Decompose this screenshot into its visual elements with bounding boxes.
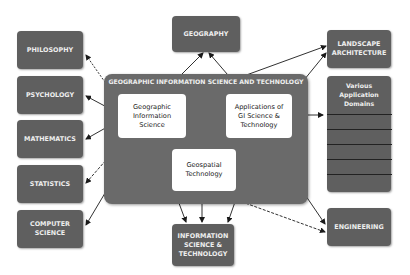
node-label: Geographic Information Science [133,103,171,130]
core-title: GEOGRAPHIC INFORMATION SCIENCE AND TECHN… [104,78,308,85]
node-label: Applications of GI Science & Technology [235,103,284,130]
node-label: Geospatial Technology [186,161,223,179]
node-label: STATISTICS [30,180,70,189]
node-statistics[interactable]: STATISTICS [17,165,83,203]
node-applications-gi[interactable]: Applications of GI Science & Technology [226,94,292,138]
node-label: Various Application Domains [327,81,391,108]
node-engineering[interactable]: ENGINEERING [327,208,391,246]
node-geospatial-technology[interactable]: Geospatial Technology [172,149,236,191]
node-label: ENGINEERING [334,223,383,232]
node-computer-science[interactable]: COMPUTER SCIENCE [17,210,83,248]
stack-divider [327,174,392,175]
node-mathematics[interactable]: MATHEMATICS [17,120,83,158]
node-label: PHILOSOPHY [27,46,73,55]
node-label: LANDSCAPE ARCHITECTURE [332,40,387,58]
node-label: PSYCHOLOGY [26,91,74,100]
node-label: COMPUTER SCIENCE [30,220,70,238]
node-label: INFORMATION SCIENCE & TECHNOLOGY [178,232,229,259]
stack-divider [327,129,392,130]
node-label: MATHEMATICS [24,135,76,144]
node-psychology[interactable]: PSYCHOLOGY [17,76,83,114]
node-philosophy[interactable]: PHILOSOPHY [17,31,83,69]
node-label: GEOGRAPHY [184,30,229,39]
node-geographic-information-science[interactable]: Geographic Information Science [118,94,186,138]
stack-divider [327,159,392,160]
node-geography[interactable]: GEOGRAPHY [172,16,240,52]
stack-divider [327,114,392,115]
node-various-application-domains[interactable]: Various Application Domains [327,76,391,192]
node-information-science-technology[interactable]: INFORMATION SCIENCE & TECHNOLOGY [172,224,234,266]
stack-divider [327,144,392,145]
node-landscape-architecture[interactable]: LANDSCAPE ARCHITECTURE [327,30,391,68]
